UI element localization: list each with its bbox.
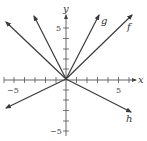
- y-tick-label-pos: 5: [56, 24, 61, 33]
- line-h-label: h: [126, 113, 132, 124]
- x-axis: [4, 77, 136, 83]
- coordinate-plane: y x g f h 5 −5 −5 5: [0, 0, 147, 141]
- lines-group: [6, 15, 132, 112]
- x-axis-label: x: [138, 74, 144, 85]
- y-axis-label: y: [62, 3, 69, 14]
- line-g-label: g: [101, 15, 107, 26]
- y-tick-label-neg: −5: [50, 127, 62, 136]
- line-steep-negative: [34, 16, 66, 79]
- line-h: [66, 79, 131, 112]
- line-f: [66, 15, 132, 79]
- line-f-label: f: [126, 21, 133, 32]
- x-tick-label-neg: −5: [7, 86, 19, 95]
- line-g: [66, 15, 99, 79]
- x-tick-label-pos: 5: [116, 86, 121, 95]
